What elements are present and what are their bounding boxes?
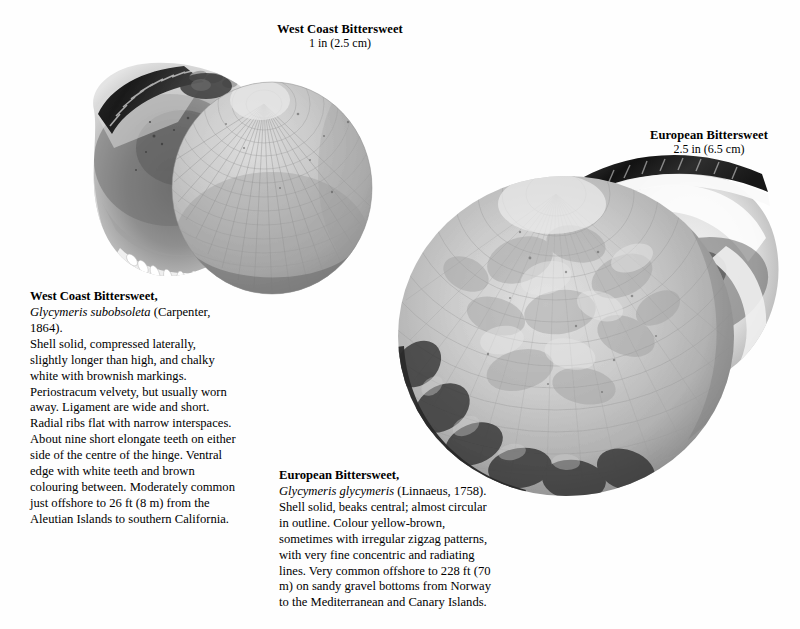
european-common-name: European Bittersweet, bbox=[279, 468, 399, 482]
west-coast-caption-name: West Coast Bittersweet bbox=[228, 22, 452, 36]
european-description: European Bittersweet, Glycymeris glycyme… bbox=[279, 468, 497, 611]
west-coast-common-name: West Coast Bittersweet, bbox=[30, 289, 158, 303]
european-bittersweet-photo bbox=[370, 140, 794, 512]
west-coast-caption: West Coast Bittersweet 1 in (2.5 cm) bbox=[228, 22, 452, 50]
west-coast-scientific-name: Glycymeris subobsoleta bbox=[30, 305, 151, 319]
west-coast-caption-size: 1 in (2.5 cm) bbox=[228, 37, 452, 50]
west-coast-bittersweet-photo bbox=[58, 52, 376, 297]
west-coast-body-text: Shell solid, compressed laterally, sligh… bbox=[30, 337, 236, 528]
european-body-text: Shell solid, beaks central; almost circu… bbox=[279, 500, 497, 611]
field-guide-page: West Coast Bittersweet 1 in (2.5 cm) Eur… bbox=[0, 0, 800, 629]
european-caption: European Bittersweet 2.5 in (6.5 cm) bbox=[618, 128, 800, 156]
european-caption-name: European Bittersweet bbox=[618, 128, 800, 142]
west-coast-description: West Coast Bittersweet, Glycymeris subob… bbox=[30, 289, 236, 528]
european-authority: (Linnaeus, 1758). bbox=[394, 484, 486, 498]
european-scientific-name: Glycymeris glycymeris bbox=[279, 484, 394, 498]
european-caption-size: 2.5 in (6.5 cm) bbox=[618, 143, 800, 156]
